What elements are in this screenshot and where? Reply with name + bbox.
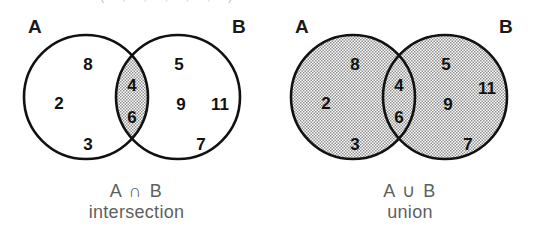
set-label-a: A — [28, 17, 42, 36]
element-b-only-4: 7 — [196, 136, 205, 153]
caption-word-union: union — [273, 202, 547, 223]
panel-union: A B 8 2 3 4 6 5 9 11 7 A ∪ B union — [273, 0, 547, 245]
caption-expression-intersection: A ∩ B — [0, 181, 273, 202]
element-a-only-2: 2 — [321, 95, 330, 112]
element-b-only-2: 9 — [176, 96, 185, 113]
element-b-only-1: 5 — [174, 56, 183, 73]
element-a-only-1: 8 — [83, 56, 92, 73]
element-intersection-2: 6 — [394, 109, 403, 126]
element-intersection-1: 4 — [127, 77, 136, 94]
element-a-only-3: 3 — [350, 136, 359, 153]
element-intersection-2: 6 — [127, 109, 136, 126]
panel-intersection: A B 8 2 3 4 6 5 9 11 7 A ∩ B intersectio… — [0, 0, 273, 245]
element-b-only-3: 11 — [478, 80, 496, 97]
caption-word-intersection: intersection — [0, 202, 273, 223]
element-intersection-1: 4 — [394, 77, 403, 94]
caption-union: A ∪ B union — [273, 181, 547, 223]
element-b-only-4: 7 — [463, 136, 472, 153]
set-label-a: A — [295, 17, 309, 36]
element-a-only-1: 8 — [350, 56, 359, 73]
element-a-only-2: 2 — [54, 95, 63, 112]
caption-expression-union: A ∪ B — [273, 181, 547, 202]
set-label-b: B — [499, 17, 513, 36]
element-b-only-1: 5 — [441, 56, 450, 73]
element-b-only-3: 11 — [211, 96, 229, 113]
element-b-only-2: 9 — [443, 96, 452, 113]
set-label-b: B — [232, 17, 246, 36]
element-a-only-3: 3 — [83, 136, 92, 153]
venn-diagram-figure: ( , , , , , ) A B 8 — [0, 0, 547, 245]
caption-intersection: A ∩ B intersection — [0, 181, 273, 223]
